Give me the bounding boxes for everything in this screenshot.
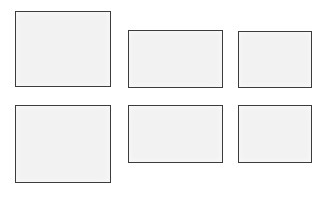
panel-2-content — [129, 31, 222, 87]
panel-6[interactable] — [238, 105, 312, 163]
panel-5[interactable] — [128, 105, 223, 163]
panel-2[interactable] — [128, 30, 223, 88]
panel-6-content — [239, 106, 311, 162]
panel-4-content — [16, 106, 110, 182]
panel-4[interactable] — [15, 105, 111, 183]
panel-1-content — [16, 12, 110, 86]
panel-3[interactable] — [238, 31, 312, 88]
panel-grid-canvas — [0, 0, 329, 197]
panel-5-content — [129, 106, 222, 162]
panel-1[interactable] — [15, 11, 111, 87]
panel-3-content — [239, 32, 311, 87]
